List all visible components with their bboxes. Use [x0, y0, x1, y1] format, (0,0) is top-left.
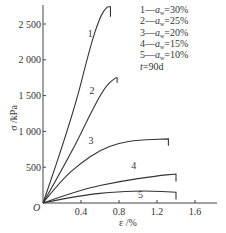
x-tick-label: 0.8 — [113, 206, 126, 217]
y-tick-label: 1 500 — [19, 90, 42, 101]
x-axis-label: ε /% — [119, 217, 137, 228]
curve-labels: 12345 — [88, 28, 143, 200]
y-tick-label: 2 000 — [19, 54, 42, 65]
plot-area: 0.40.81.21.65001 0001 5002 0002 500 1234… — [0, 0, 226, 233]
curve-label: 5 — [138, 189, 143, 200]
legend-entry: 5—aw=10% — [140, 49, 188, 61]
y-axis-label: σ /kPa — [8, 105, 19, 131]
y-tick-label: 2 500 — [19, 19, 42, 30]
legend-entry: 4—aw=15% — [140, 38, 188, 50]
x-tick-label: 0.4 — [75, 206, 88, 217]
curve-series-1 — [43, 7, 110, 203]
legend: 1—aw=30%2—aw=25%3—aw=20%4—aw=15%5—aw=10%… — [140, 4, 188, 72]
curve-label: 3 — [89, 135, 94, 146]
curve-label: 2 — [90, 85, 95, 96]
y-tick-label: 500 — [26, 162, 41, 173]
origin-label: O — [33, 202, 40, 213]
curve-series-5 — [43, 191, 176, 203]
legend-entry: 2—aw=25% — [140, 15, 188, 27]
legend-entry: 3—aw=20% — [140, 27, 188, 39]
legend-entry: 1—aw=30% — [140, 4, 188, 16]
legend-entry: t=90d — [140, 61, 163, 72]
x-tick-label: 1.6 — [189, 206, 202, 217]
y-tick-label: 1 000 — [19, 126, 42, 137]
curve-label: 1 — [88, 28, 93, 39]
curve-label: 4 — [131, 160, 136, 171]
x-tick-label: 1.2 — [151, 206, 164, 217]
stress-strain-chart: 0.40.81.21.65001 0001 5002 0002 500 1234… — [0, 0, 226, 233]
